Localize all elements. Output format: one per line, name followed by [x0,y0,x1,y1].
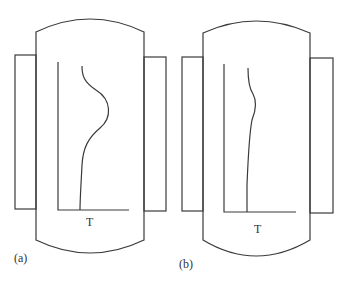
axis-label-t-a: T [86,215,94,229]
axis-label-t-b: T [254,222,262,236]
caption-a: (a) [14,251,27,265]
temperature-profile-b [247,68,256,212]
caption-b: (b) [179,257,193,271]
axes-a [58,62,129,210]
panel-b: T (b) [179,21,333,271]
right-heater-b [310,58,333,213]
temperature-profile-a [80,66,109,210]
axes-b [224,64,296,212]
right-heater-a [144,57,166,211]
left-heater-b [182,57,203,211]
panel-a: T (a) [14,19,166,265]
vessel-b [203,21,310,256]
diagram-canvas: T (a) T (b) [0,0,345,285]
left-heater-a [15,55,36,209]
